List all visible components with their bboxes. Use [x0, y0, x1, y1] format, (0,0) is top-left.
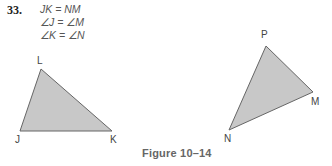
vertex-label-j: J: [15, 134, 20, 145]
vertex-label-n: N: [224, 133, 231, 144]
vertex-label-m: M: [311, 96, 319, 107]
triangle-jkl: [20, 69, 112, 131]
figure-caption: Figure 10–14: [142, 147, 212, 159]
vertex-label-k: K: [110, 134, 117, 145]
triangle-mnp: [229, 46, 313, 130]
vertex-label-l: L: [37, 55, 43, 66]
vertex-label-p: P: [261, 29, 268, 40]
figure-diagram: [0, 0, 332, 166]
